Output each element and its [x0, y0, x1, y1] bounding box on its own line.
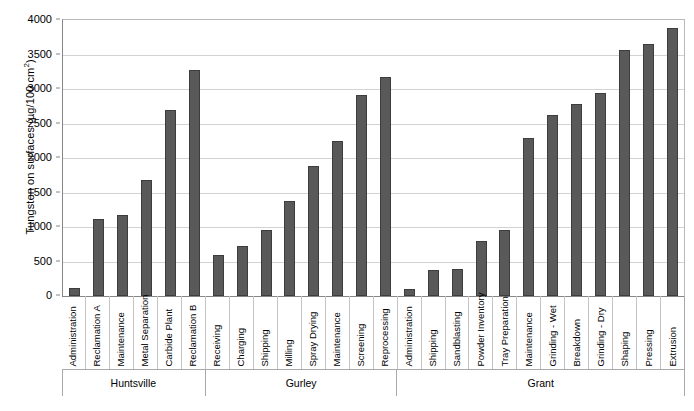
x-axis-category-labels: AdministrationReclamation AMaintenanceMe… — [62, 296, 685, 370]
x-axis-category-label: Sandblasting — [451, 311, 461, 366]
x-axis-category-cell: Administration — [62, 296, 86, 369]
bar-slot — [397, 20, 421, 296]
y-axis-tick-label: 3000 — [28, 83, 52, 94]
bar-slot — [135, 20, 159, 296]
bar[interactable] — [165, 110, 176, 296]
bar-slot — [63, 20, 87, 296]
y-axis-tick-label: 4000 — [28, 14, 52, 25]
x-axis-category-cell: Maintenance — [517, 296, 541, 369]
bar[interactable] — [667, 28, 678, 296]
y-axis-tick-mark — [56, 19, 60, 20]
bar[interactable] — [332, 141, 343, 296]
y-axis-tick-mark — [56, 157, 60, 158]
bar-slot — [541, 20, 565, 296]
bar[interactable] — [237, 246, 248, 296]
x-axis-category-cell: Breakdown — [565, 296, 589, 369]
x-axis-category-cell: Screening — [350, 296, 374, 369]
bar[interactable] — [261, 230, 272, 296]
x-axis-category-cell: Tray Preparation — [493, 296, 517, 369]
bar[interactable] — [189, 70, 200, 296]
x-axis-category-cell: Shipping — [254, 296, 278, 369]
bars-layer — [63, 20, 684, 296]
x-axis-category-cell: Pressing — [637, 296, 661, 369]
bar[interactable] — [571, 104, 582, 297]
bar[interactable] — [284, 201, 295, 296]
bar-slot — [230, 20, 254, 296]
bar[interactable] — [380, 77, 391, 296]
bar[interactable] — [595, 93, 606, 296]
bar[interactable] — [213, 255, 224, 296]
x-axis-group-labels: HuntsvilleGurleyGrant — [62, 370, 685, 396]
x-axis-category-label: Grinding - Dry — [595, 307, 605, 366]
x-axis-category-cell: Powder Inventory — [469, 296, 493, 369]
bar[interactable] — [308, 166, 319, 296]
x-axis-category-label: Breakdown — [571, 318, 581, 366]
bar-slot — [445, 20, 469, 296]
bar-slot — [87, 20, 111, 296]
y-axis-tick-label: 3500 — [28, 48, 52, 59]
y-axis-tick-label: 500 — [34, 255, 52, 266]
bar[interactable] — [643, 44, 654, 296]
x-axis-category-label: Carbide Plant — [164, 308, 174, 366]
y-axis-tick-label: 2500 — [28, 117, 52, 128]
x-axis-category-label: Tray Preparation — [499, 296, 509, 366]
x-axis-category-label: Screening — [356, 323, 366, 366]
y-axis-tick-label: 0 — [46, 290, 52, 301]
y-axis-tick-label: 1000 — [28, 221, 52, 232]
x-axis-category-cell: Reclamation A — [86, 296, 110, 369]
bar-slot — [493, 20, 517, 296]
bar-slot — [182, 20, 206, 296]
x-axis-category-label: Shipping — [428, 329, 438, 366]
x-axis-category-cell: Sandblasting — [446, 296, 470, 369]
x-axis-category-label: Metal Separation — [140, 294, 150, 366]
bar[interactable] — [499, 230, 510, 296]
bar-slot — [469, 20, 493, 296]
x-axis-category-label: Maintenance — [116, 312, 126, 366]
bar[interactable] — [117, 215, 128, 296]
y-axis-tick-label: 1500 — [28, 186, 52, 197]
bar[interactable] — [428, 270, 439, 296]
x-axis-category-cell: Maintenance — [110, 296, 134, 369]
bar-slot — [612, 20, 636, 296]
bar[interactable] — [141, 180, 152, 296]
x-axis-category-label: Administration — [68, 306, 78, 366]
bar-slot — [421, 20, 445, 296]
x-axis-category-cell: Spray Drying — [302, 296, 326, 369]
bar-slot — [206, 20, 230, 296]
bar[interactable] — [452, 269, 463, 296]
x-axis-group-label: Grant — [397, 370, 685, 396]
y-axis-tick-mark — [56, 122, 60, 123]
x-axis-group-label: Gurley — [206, 370, 398, 396]
x-axis-category-cell: Maintenance — [326, 296, 350, 369]
bar[interactable] — [476, 241, 487, 296]
bar[interactable] — [93, 219, 104, 296]
bar[interactable] — [356, 95, 367, 296]
bar[interactable] — [547, 115, 558, 296]
bar-slot — [111, 20, 135, 296]
x-axis-category-cell: Milling — [278, 296, 302, 369]
x-axis-category-cell: Metal Separation — [134, 296, 158, 369]
x-axis-category-label: Reclamation B — [188, 304, 198, 366]
bar[interactable] — [619, 50, 630, 296]
x-axis-category-cell: Carbide Plant — [158, 296, 182, 369]
bar-slot — [302, 20, 326, 296]
bar-slot — [278, 20, 302, 296]
x-axis-category-cell: Reclamation B — [182, 296, 206, 369]
bar[interactable] — [69, 288, 80, 296]
x-axis-category-label: Charging — [236, 327, 246, 366]
y-axis-tick-mark — [56, 260, 60, 261]
plot-area — [62, 19, 685, 297]
bar-slot — [326, 20, 350, 296]
bar-slot — [660, 20, 684, 296]
x-axis-category-cell: Grinding - Wet — [541, 296, 565, 369]
y-axis-tick-mark — [56, 53, 60, 54]
bar-slot — [350, 20, 374, 296]
y-axis-tick-mark — [56, 226, 60, 227]
bar-slot — [636, 20, 660, 296]
bar-chart: Tungsten on surfaces (µg/100 cm2) 400035… — [0, 0, 694, 411]
x-axis-category-label: Reclamation A — [92, 305, 102, 366]
bar[interactable] — [404, 289, 415, 296]
bar[interactable] — [523, 138, 534, 296]
x-axis-category-label: Receiving — [212, 324, 222, 366]
y-axis-tick-labels: 40003500300025002000150010005000 — [14, 19, 56, 295]
